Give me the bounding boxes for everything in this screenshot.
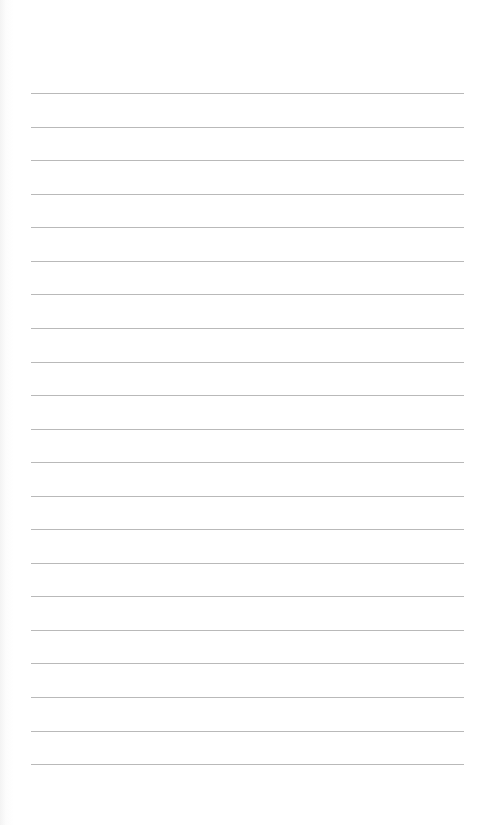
ruled-line xyxy=(31,563,464,564)
ruled-line xyxy=(31,596,464,597)
ruled-line xyxy=(31,496,464,497)
ruled-line xyxy=(31,395,464,396)
ruled-line xyxy=(31,127,464,128)
ruled-line xyxy=(31,328,464,329)
lined-paper-page xyxy=(0,0,489,825)
ruled-line xyxy=(31,462,464,463)
ruled-line xyxy=(31,227,464,228)
ruled-line xyxy=(31,362,464,363)
ruled-line xyxy=(31,294,464,295)
ruled-line xyxy=(31,261,464,262)
ruled-line xyxy=(31,429,464,430)
ruled-line xyxy=(31,731,464,732)
ruled-line xyxy=(31,194,464,195)
ruled-line xyxy=(31,630,464,631)
ruled-line xyxy=(31,529,464,530)
ruled-line xyxy=(31,160,464,161)
ruled-line xyxy=(31,663,464,664)
ruled-line xyxy=(31,764,464,765)
ruled-line xyxy=(31,697,464,698)
ruled-line xyxy=(31,93,464,94)
